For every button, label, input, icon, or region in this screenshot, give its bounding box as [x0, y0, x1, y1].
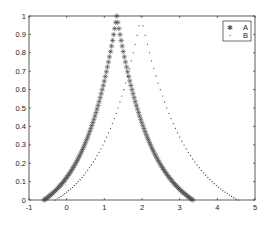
marker-asterisk-icon: [126, 74, 131, 79]
marker-dot-icon: [78, 181, 79, 182]
marker-dot-icon: [121, 95, 122, 96]
marker-dot-icon: [220, 188, 221, 189]
marker-asterisk-icon: [123, 59, 128, 64]
marker-asterisk-icon: [111, 32, 116, 37]
marker-dot-icon: [233, 197, 234, 198]
marker-dot-icon: [60, 196, 61, 197]
x-tick-label: 3: [178, 203, 182, 212]
marker-asterisk-icon: [109, 43, 114, 48]
marker-dot-icon: [81, 177, 82, 178]
marker-asterisk-icon: [97, 99, 102, 104]
marker-dot-icon: [87, 170, 88, 171]
marker-dot-icon: [131, 60, 132, 61]
marker-dot-icon: [125, 82, 126, 83]
marker-dot-icon: [177, 132, 178, 133]
marker-dot-icon: [171, 118, 172, 119]
marker-dot-icon: [70, 188, 71, 189]
marker-dot-icon: [203, 172, 204, 173]
x-tick-label: 5: [253, 203, 257, 212]
marker-asterisk-icon: [98, 95, 103, 100]
marker-asterisk-icon: [120, 43, 125, 48]
marker-asterisk-icon: [92, 113, 97, 118]
marker-asterisk-icon: [103, 74, 108, 79]
chart-canvas: -101234500.10.20.30.40.50.60.70.80.91 ✱ …: [0, 0, 272, 225]
marker-dot-icon: [199, 167, 200, 168]
marker-asterisk-icon: [127, 78, 132, 83]
marker-dot-icon: [136, 35, 137, 36]
marker-dot-icon: [59, 197, 60, 198]
marker-dot-icon: [162, 95, 163, 96]
y-tick-label: 0.7: [16, 67, 26, 76]
marker-dot-icon: [76, 183, 77, 184]
marker-dot-icon: [209, 179, 210, 180]
marker-dot-icon: [106, 136, 107, 137]
marker-dot-icon: [155, 75, 156, 76]
marker-dot-icon: [168, 113, 169, 114]
axes-box: [29, 16, 255, 200]
marker-asterisk-icon: [95, 103, 100, 108]
marker-dot-icon: [83, 175, 84, 176]
y-tick-label: 0.5: [16, 104, 26, 113]
marker-dot-icon: [110, 128, 111, 129]
marker-dot-icon: [127, 75, 128, 76]
marker-dot-icon: [183, 144, 184, 145]
y-tick-label: 0.6: [16, 85, 26, 94]
marker-asterisk-icon: [119, 38, 124, 43]
marker-dot-icon: [135, 44, 136, 45]
marker-asterisk-icon: [129, 87, 134, 92]
marker-dot-icon: [175, 128, 176, 129]
marker-asterisk-icon: [117, 32, 122, 37]
marker-dot-icon: [179, 136, 180, 137]
marker-dot-icon: [212, 181, 213, 182]
marker-dot-icon: [214, 183, 215, 184]
marker-dot-icon: [100, 148, 101, 149]
marker-dot-icon: [158, 82, 159, 83]
marker-asterisk-icon: [102, 78, 107, 83]
marker-dot-icon: [104, 141, 105, 142]
marker-dot-icon: [116, 113, 117, 114]
marker-dot-icon: [123, 89, 124, 90]
marker-dot-icon: [138, 25, 139, 26]
marker-dot-icon: [57, 198, 58, 199]
chart-figure: -101234500.10.20.30.40.50.60.70.80.91 ✱ …: [0, 0, 272, 225]
marker-dot-icon: [147, 44, 148, 45]
marker-asterisk-icon: [121, 49, 126, 54]
marker-dot-icon: [231, 196, 232, 197]
marker-dot-icon: [68, 190, 69, 191]
marker-dot-icon: [207, 177, 208, 178]
marker-dot-icon: [133, 52, 134, 53]
marker-dot-icon: [205, 175, 206, 176]
x-tick-label: 0: [65, 203, 69, 212]
marker-dot-icon: [108, 132, 109, 133]
marker-dot-icon: [85, 172, 86, 173]
y-tick-label: 0.3: [16, 140, 26, 149]
marker-dot-icon: [145, 35, 146, 36]
marker-dot-icon: [119, 101, 120, 102]
marker-dot-icon: [114, 118, 115, 119]
marker-dot-icon: [89, 167, 90, 168]
marker-asterisk-icon: [94, 106, 99, 111]
marker-asterisk-icon: [105, 64, 110, 69]
marker-dot-icon: [72, 187, 73, 188]
marker-dot-icon: [227, 193, 228, 194]
marker-asterisk-icon: [100, 87, 105, 92]
x-tick-label: 4: [215, 203, 219, 212]
marker-dot-icon: [160, 89, 161, 90]
marker-dot-icon: [62, 194, 63, 195]
marker-dot-icon: [188, 152, 189, 153]
marker-asterisk-icon: [116, 26, 121, 31]
marker-dot-icon: [173, 123, 174, 124]
marker-dot-icon: [151, 60, 152, 61]
marker-dot-icon: [149, 52, 150, 53]
marker-dot-icon: [186, 148, 187, 149]
marker-asterisk-icon: [135, 106, 140, 111]
series-layer: [41, 13, 238, 202]
marker-dot-icon: [97, 155, 98, 156]
marker-asterisk-icon: [106, 59, 111, 64]
marker-dot-icon: [66, 192, 67, 193]
marker-asterisk-icon: [133, 99, 138, 104]
marker-asterisk-icon: [132, 95, 137, 100]
marker-dot-icon: [142, 25, 143, 26]
marker-asterisk-icon: [108, 49, 113, 54]
marker-asterisk-icon: [110, 38, 115, 43]
